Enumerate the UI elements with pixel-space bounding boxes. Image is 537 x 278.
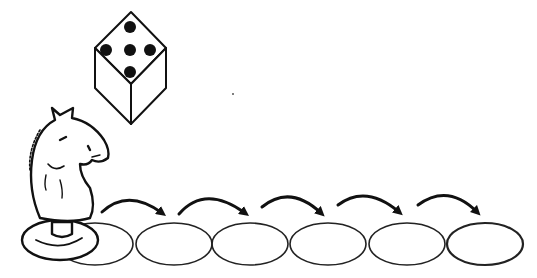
space-4 [290,223,366,265]
arrow-1-icon [102,200,162,213]
speck [232,93,234,95]
arrow-2-icon [179,199,245,214]
hop-arrows [102,196,477,214]
space-5 [369,223,445,265]
die-icon [95,12,166,124]
board-spaces [57,223,523,265]
space-6 [447,223,523,265]
arrow-5-icon [418,196,477,212]
arrow-4-icon [338,196,399,212]
space-2 [136,223,212,265]
space-3 [212,223,288,265]
illustration: Knight chess piece on the first of six o… [0,0,537,278]
knight-icon [22,108,109,260]
arrow-3-icon [262,197,321,213]
